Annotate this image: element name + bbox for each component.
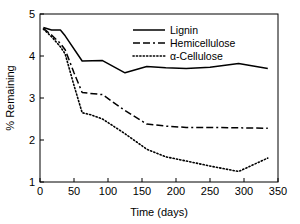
legend-label-2: Hemicellulose	[170, 37, 236, 49]
x-tick-label: 50	[68, 185, 80, 197]
y-axis-tick-labels: 12345	[29, 8, 35, 188]
legend-label-3: α-Cellulose	[170, 50, 223, 62]
y-axis-ticks	[40, 14, 44, 182]
y-tick-label: 4	[29, 50, 35, 62]
y-tick-label: 1	[29, 176, 35, 188]
x-tick-label: 250	[201, 185, 219, 197]
series-line-cellulose	[43, 29, 267, 171]
x-tick-label: 300	[235, 185, 253, 197]
plot-area-border	[40, 14, 278, 182]
y-tick-label: 3	[29, 92, 35, 104]
line-chart-figure: 050100150200250300350 12345 Time (days) …	[0, 0, 300, 224]
series-line-lignin	[43, 27, 267, 72]
x-axis-ticks	[40, 178, 278, 182]
plot-frame	[40, 14, 278, 182]
x-axis-title: Time (days)	[130, 206, 188, 218]
chart-legend: LigninHemicelluloseα-Cellulose	[133, 24, 236, 62]
y-tick-label: 5	[29, 8, 35, 20]
y-tick-label: 2	[29, 134, 35, 146]
x-tick-label: 150	[133, 185, 151, 197]
x-tick-label: 0	[37, 185, 43, 197]
x-tick-label: 350	[269, 185, 287, 197]
x-tick-label: 100	[99, 185, 117, 197]
chart-container: 050100150200250300350 12345 Time (days) …	[0, 0, 300, 224]
data-series-layer	[43, 27, 267, 171]
x-tick-label: 200	[167, 185, 185, 197]
legend-label-1: Lignin	[170, 24, 198, 36]
x-axis-tick-labels: 050100150200250300350	[37, 185, 287, 197]
y-axis-title: % Remaining	[4, 65, 16, 130]
